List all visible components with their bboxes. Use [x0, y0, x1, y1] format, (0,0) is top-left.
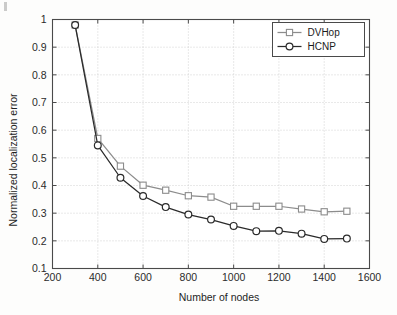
- x-tick-label: 600: [134, 271, 152, 283]
- y-tick-label: 0.6: [32, 124, 47, 136]
- y-tick-label: 1: [41, 13, 47, 25]
- y-tick-label: 0.9: [32, 41, 47, 53]
- chart-legend[interactable]: DVHopHCNP: [273, 23, 365, 57]
- y-tick-label: 0.5: [32, 152, 47, 164]
- x-tick-label: 1200: [267, 271, 291, 283]
- y-tick-label: 0.4: [32, 179, 47, 191]
- x-tick-label: 1600: [358, 271, 382, 283]
- y-tick-label: 0.2: [32, 235, 47, 247]
- y-tick-label: 0.3: [32, 207, 47, 219]
- figure-canvas: 20040060080010001200140016000.10.20.30.4…: [0, 0, 397, 315]
- x-tick-label: 1400: [313, 271, 337, 283]
- legend-label: DVHop: [308, 27, 341, 38]
- x-axis-title: Number of nodes: [179, 291, 260, 303]
- y-tick-label: 0.7: [32, 96, 47, 108]
- legend-label: HCNP: [308, 41, 337, 52]
- x-tick-label: 800: [180, 271, 198, 283]
- line-chart: 20040060080010001200140016000.10.20.30.4…: [0, 0, 397, 315]
- y-tick-label: 0.1: [32, 262, 47, 274]
- y-axis-title: Normalized localization error: [7, 93, 19, 227]
- y-tick-label: 0.8: [32, 69, 47, 81]
- x-tick-label: 1000: [222, 271, 246, 283]
- x-tick-label: 400: [89, 271, 107, 283]
